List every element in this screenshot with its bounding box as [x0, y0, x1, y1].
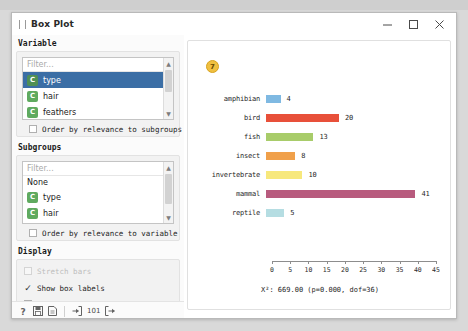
subgroups-list-scrollbar[interactable]: ▲ ▼	[163, 162, 173, 223]
maximize-button[interactable]	[400, 14, 426, 34]
axis-tick	[400, 261, 401, 264]
order-by-relevance-variable-checkbox[interactable]: Order by relevance to variable	[29, 227, 177, 239]
input-count-label: 101	[87, 307, 100, 315]
scroll-up-icon[interactable]: ▲	[164, 163, 173, 172]
checkbox-label: Order by relevance to subgroups	[42, 125, 182, 134]
subgroups-none-label: None	[27, 178, 48, 187]
scroll-down-icon[interactable]: ▼	[164, 109, 173, 118]
widget-statusbar: ? 101	[12, 301, 184, 319]
bar-row-invertebrate[interactable]: invertebrate 10	[188, 167, 451, 183]
axis-tick	[308, 261, 309, 264]
output-arrow-icon[interactable]	[105, 306, 115, 316]
bar-category-label: insect	[188, 152, 266, 160]
bar-value-label: 20	[345, 114, 353, 122]
variable-section-title: Variable	[18, 39, 57, 48]
svg-text:?: ?	[20, 307, 25, 317]
bar-row-amphibian[interactable]: amphibian 4	[188, 91, 451, 107]
bar-mammal	[266, 190, 415, 198]
axis-tick-label: 10	[304, 266, 312, 274]
variable-item-label: hair	[43, 92, 58, 101]
categorical-variable-icon: C	[27, 91, 38, 102]
variable-item-label: type	[43, 76, 61, 85]
order-by-relevance-subgroups-checkbox[interactable]: Order by relevance to subgroups	[29, 123, 182, 135]
drag-grip-icon[interactable]	[19, 20, 26, 29]
axis-tick	[272, 261, 273, 264]
axis-tick-label: 5	[288, 266, 292, 274]
chart-badge[interactable]: 7	[206, 60, 219, 73]
checkbox-label: Stretch bars	[37, 267, 91, 276]
bar-fish	[266, 133, 313, 141]
variable-list-item-feathers[interactable]: C feathers	[23, 104, 173, 120]
chart-panel: 7 amphibian 4 bird 20	[184, 35, 457, 319]
scrollbar-thumb[interactable]	[165, 70, 172, 92]
bar-value-label: 8	[301, 152, 305, 160]
bar-value-label: 10	[308, 171, 316, 179]
window-titlebar: Box Plot	[12, 13, 456, 35]
axis-tick	[436, 261, 437, 264]
bar-row-mammal[interactable]: mammal 41	[188, 186, 451, 202]
bar-category-label: mammal	[188, 190, 266, 198]
axis-line	[272, 261, 436, 262]
variable-list[interactable]: Filter... C type C hair C feathers ▲	[22, 57, 174, 120]
bar-row-insect[interactable]: insect 8	[188, 148, 451, 164]
toolbar-separator	[64, 306, 65, 317]
show-box-labels-checkbox[interactable]: ✓ Show box labels	[24, 282, 105, 294]
bar-category-label: bird	[188, 114, 266, 122]
stretch-bars-checkbox[interactable]: Stretch bars	[24, 265, 91, 277]
bar-row-fish[interactable]: fish 13	[188, 129, 451, 145]
bar-category-label: fish	[188, 133, 266, 141]
checkbox-box	[24, 267, 32, 275]
variable-list-item-type[interactable]: C type	[23, 72, 173, 88]
scrollbar-thumb[interactable]	[165, 174, 172, 204]
bar-row-reptile[interactable]: reptile 5	[188, 205, 451, 221]
bar-value-label: 5	[290, 209, 294, 217]
bar-value-label: 41	[421, 190, 429, 198]
control-panel: Variable Filter... C type C hair C feath…	[12, 35, 184, 319]
window-controls	[374, 13, 452, 35]
minimize-button[interactable]	[374, 14, 400, 34]
variable-filter-input[interactable]: Filter...	[23, 58, 173, 72]
scroll-down-icon[interactable]: ▼	[164, 213, 173, 222]
save-image-icon[interactable]	[33, 306, 43, 316]
bar-category-label: invertebrate	[188, 171, 266, 179]
subgroups-list[interactable]: Filter... None C type C hair ▲ ▼	[22, 161, 174, 224]
bar-insect	[266, 152, 295, 160]
axis-tick-label: 30	[377, 266, 385, 274]
window-title: Box Plot	[31, 19, 74, 29]
subgroups-item-label: type	[43, 193, 61, 202]
categorical-variable-icon: C	[27, 208, 38, 219]
variable-list-item-hair[interactable]: C hair	[23, 88, 173, 104]
axis-tick-label: 40	[414, 266, 422, 274]
subgroups-filter-input[interactable]: Filter...	[23, 162, 173, 176]
close-button[interactable]	[426, 14, 452, 34]
variable-item-label: feathers	[43, 108, 76, 117]
subgroups-list-item-none[interactable]: None	[23, 176, 173, 189]
axis-tick	[381, 261, 382, 264]
question-icon[interactable]: ?	[18, 306, 28, 317]
axis-tick-label: 25	[359, 266, 367, 274]
variable-filter-placeholder: Filter...	[27, 60, 54, 69]
axis-tick-label: 20	[341, 266, 349, 274]
bar-amphibian	[266, 95, 281, 103]
axis-tick	[290, 261, 291, 264]
subgroups-section-title: Subgroups	[18, 143, 61, 152]
checkbox-box	[29, 229, 37, 237]
box-plot-window: Box Plot Variable Filter...	[11, 12, 457, 319]
axis-tick	[345, 261, 346, 264]
subgroups-list-item-hair[interactable]: C hair	[23, 205, 173, 221]
categorical-variable-icon: C	[27, 192, 38, 203]
report-icon[interactable]	[48, 306, 57, 316]
input-arrow-icon[interactable]	[72, 306, 82, 316]
box-plot-chart[interactable]: 7 amphibian 4 bird 20	[187, 40, 451, 310]
axis-tick	[363, 261, 364, 264]
bar-value-label: 13	[319, 133, 327, 141]
scroll-up-icon[interactable]: ▲	[164, 59, 173, 68]
bar-invertebrate	[266, 171, 302, 179]
variable-list-scrollbar[interactable]: ▲ ▼	[163, 58, 173, 119]
bar-bird	[266, 114, 339, 122]
bar-row-bird[interactable]: bird 20	[188, 110, 451, 126]
chi-square-annotation: X²: 669.00 (p=0.000, dof=36)	[188, 286, 451, 294]
subgroups-list-item-type[interactable]: C type	[23, 189, 173, 205]
subgroups-filter-placeholder: Filter...	[27, 164, 54, 173]
checkbox-label: Show box labels	[37, 284, 105, 293]
